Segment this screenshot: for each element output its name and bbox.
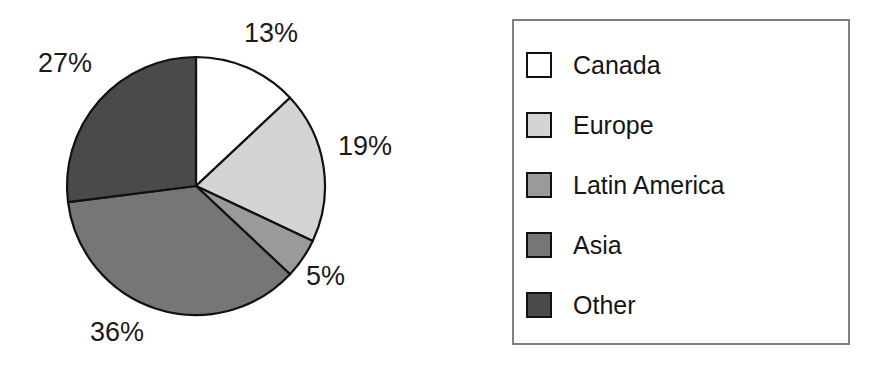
legend-swatch-other bbox=[526, 292, 552, 318]
legend-list: CanadaEuropeLatin AmericaAsiaOther bbox=[526, 35, 846, 335]
legend-item-canada[interactable]: Canada bbox=[526, 35, 846, 95]
pie-chart-figure: 13% 19% 5% 36% 27% CanadaEuropeLatin Ame… bbox=[0, 0, 890, 375]
legend-label-canada: Canada bbox=[573, 53, 661, 78]
legend-box: CanadaEuropeLatin AmericaAsiaOther bbox=[512, 19, 850, 345]
pie-label-europe: 19% bbox=[338, 133, 392, 160]
legend-swatch-latin-america bbox=[526, 172, 552, 198]
pie-slice-other[interactable] bbox=[67, 57, 196, 202]
legend-label-other: Other bbox=[573, 293, 636, 318]
pie-chart-area: 13% 19% 5% 36% 27% bbox=[0, 0, 460, 375]
legend-label-europe: Europe bbox=[573, 113, 654, 138]
legend-item-asia[interactable]: Asia bbox=[526, 215, 846, 275]
legend-label-asia: Asia bbox=[573, 233, 622, 258]
legend-label-latin-america: Latin America bbox=[573, 173, 724, 198]
legend-swatch-canada bbox=[526, 52, 552, 78]
legend-swatch-asia bbox=[526, 232, 552, 258]
legend-swatch-europe bbox=[526, 112, 552, 138]
pie-label-other: 27% bbox=[38, 50, 92, 77]
legend-item-latin-america[interactable]: Latin America bbox=[526, 155, 846, 215]
pie-label-asia: 36% bbox=[90, 319, 144, 346]
legend-item-other[interactable]: Other bbox=[526, 275, 846, 335]
legend-item-europe[interactable]: Europe bbox=[526, 95, 846, 155]
pie-label-latin-america: 5% bbox=[306, 263, 345, 290]
pie-label-canada: 13% bbox=[244, 20, 298, 47]
pie-slices-group bbox=[67, 57, 325, 315]
